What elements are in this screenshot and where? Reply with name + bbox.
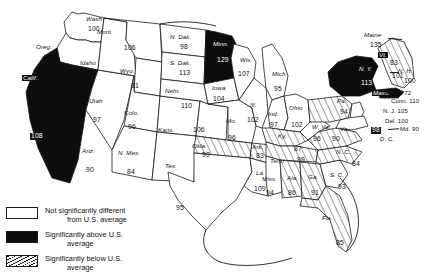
label-ill-name: Ill. [250,102,257,108]
label-wyo-value: 81 [131,83,139,90]
label-va-name: Va. [340,126,349,132]
label-ariz-value: 90 [86,167,94,174]
label-conn: Conn. 110 [391,98,419,104]
label-iowa-name: Iowa [212,85,225,91]
label-colo-value: 96 [128,124,136,131]
label-mo-name: Mo. [226,118,237,124]
legend-item-above: Significantly above U.S. average [6,230,202,249]
label-pa-value: 94 [340,109,348,116]
label-wash-name: Wash. [86,16,104,22]
label-minn-name: Minn. [212,41,230,47]
label-la-value: 109 [254,186,266,193]
label-oreg-name: Oreg. [36,44,52,50]
label-tenn-value: 99 [297,157,305,164]
state-kans[interactable] [196,101,228,140]
label-idaho-name: Idaho [80,60,96,66]
label-fla-name: Fla. [322,215,333,221]
label-ill-value: 102 [247,117,259,124]
legend-below-line1: Significantly below U.S. [45,254,122,263]
label-idaho-value: 102 [83,76,95,83]
label-ohio-value: 102 [291,122,303,129]
label-ndak-value: 98 [180,44,188,51]
label-mont-value: 106 [124,45,136,52]
label-okla-name: Okla. [192,143,207,149]
label-ind-name: Ind. [268,111,279,117]
label-dc-name: D. C. [380,136,394,142]
legend-item-neutral: Not significantly different from U.S. av… [6,206,202,225]
state-ndak[interactable] [160,24,206,57]
label-ind-value: 97 [270,122,278,129]
label-nmex-value: 84 [127,169,135,176]
label-tex-name: Tex. [165,163,177,169]
label-ala-name: Ala. [287,175,298,181]
label-nh-value: 100 [404,78,416,85]
label-nc-name: N. C. [336,149,351,155]
legend: Not significantly different from U.S. av… [6,206,202,278]
state-wyo[interactable] [134,58,162,96]
label-okla-value: 90 [202,152,210,159]
label-minn-value: 129 [216,57,230,64]
label-utah-value: 97 [93,117,101,124]
label-sdak-name: S. Dak. [170,60,191,66]
label-nev-name: Nev. [50,86,63,92]
label-nmex-name: N. Mex. [118,150,140,156]
label-nebr-name: Nebr. [165,88,180,94]
label-kans-value: 106 [193,127,205,134]
label-tenn-name: Tenn. [270,158,286,164]
label-md: Md. 90 [400,126,419,132]
label-colo-name: Colo. [124,110,139,116]
label-mo-value: 96 [228,135,236,142]
legend-neutral-line1: Not significantly different [45,206,125,215]
legend-text-neutral: Not significantly different from U.S. av… [45,206,127,225]
legend-above-line1: Significantly above U.S. [45,230,123,239]
legend-item-below: Significantly below U.S. average [6,254,202,273]
label-wyo-name: Wyo. [120,68,135,74]
label-kans-name: Kans. [158,127,174,133]
legend-swatch-below [6,255,38,267]
legend-below-line2: average [45,263,122,272]
label-ny-value: 113 [360,80,373,87]
label-del: Del. 100 [385,118,408,124]
label-sdak-value: 113 [179,70,190,77]
label-ny-name: N. Y. [358,66,374,72]
legend-swatch-neutral [6,207,38,219]
label-sc-name: S. C. [330,172,344,178]
label-iowa-value: 104 [213,96,225,103]
label-nev-value: 96 [56,108,64,115]
label-mont-name: Mont. [97,29,113,35]
label-ohio-name: Ohio [289,105,302,111]
label-ariz-name: Ariz. [82,148,95,154]
legend-swatch-above [6,231,38,243]
label-ndak-name: N. Dak. [170,34,191,40]
label-sc-value: 93 [338,184,346,191]
label-vt-value: 83 [390,60,398,67]
label-ark-name: Ark. [252,144,263,150]
label-fla-value: 85 [336,240,344,247]
label-ga-value: 91 [311,190,319,197]
label-maine-name: Maine [364,32,381,38]
label-wva-value: 96 [313,136,321,143]
us-choropleth-map: Wash. 100 Oreg. 98 Calif. 108 Nev. 96 Id… [0,0,435,279]
label-nj: N. J. 105 [383,108,408,114]
state-sdak[interactable] [161,52,205,84]
state-ny[interactable] [328,56,378,96]
label-mass-value: 101 [392,73,404,80]
label-miss-value: 94 [266,190,274,197]
label-miss-name: Miss. [262,176,277,182]
label-calif-name: Calif. [22,75,39,81]
label-pa-name: Pa. [337,98,347,104]
state-calif[interactable] [26,48,98,183]
label-ri: R. I. 72 [391,90,411,96]
legend-text-above: Significantly above U.S. average [45,230,123,249]
label-nebr-value: 110 [181,103,192,110]
label-oreg-value: 98 [42,57,50,64]
label-vt-name: Vt. [378,52,388,58]
label-va-value: 90 [332,136,340,143]
legend-neutral-line2: from U.S. average [45,215,127,224]
label-wis-value: 107 [238,71,250,78]
label-mich-name: Mich. [272,71,287,77]
legend-above-line2: average [45,239,123,248]
label-wva-name: W. Va. [312,124,331,130]
label-utah-name: Utah [89,98,102,104]
label-ky-name: Ky. [278,133,287,139]
